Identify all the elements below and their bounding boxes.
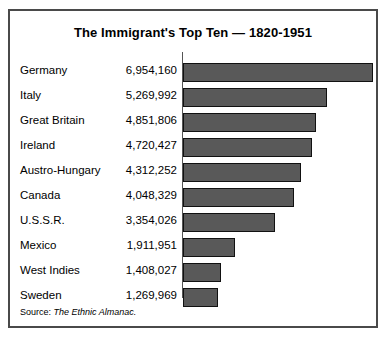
bar-row-label: Italy	[20, 89, 41, 101]
bar-row: Germany6,954,160	[10, 61, 376, 86]
bar-row-label: Sweden	[20, 289, 62, 301]
bar-row-value: 1,408,027	[70, 264, 177, 276]
bar-row: U.S.S.R.3,354,026	[10, 211, 376, 236]
bar-row-value: 5,269,992	[70, 89, 177, 101]
bar	[183, 138, 312, 157]
bar	[183, 63, 373, 82]
bar-row-value: 4,720,427	[70, 139, 177, 151]
bar-row-label: Ireland	[20, 139, 55, 151]
bar-row: Mexico1,911,951	[10, 236, 376, 261]
bar-row: Italy5,269,992	[10, 86, 376, 111]
screenshot-root: The Immigrant's Top Ten — 1820-1951 Germ…	[0, 0, 387, 339]
bar	[183, 113, 316, 132]
bar-row-value: 3,354,026	[70, 214, 177, 226]
bar-row-label: U.S.S.R.	[20, 214, 65, 226]
bar-row-value: 4,851,806	[70, 114, 177, 126]
chart-title: The Immigrant's Top Ten — 1820-1951	[10, 25, 376, 40]
source-title: The Ethnic Almanac.	[54, 307, 137, 317]
bar-row-value: 4,048,329	[70, 189, 177, 201]
source-label: Source:	[20, 307, 51, 317]
bar-row: Austro-Hungary4,312,252	[10, 161, 376, 186]
bar	[183, 238, 235, 257]
bar	[183, 88, 327, 107]
bar-row-value: 1,269,969	[70, 289, 177, 301]
plot-area: Germany6,954,160Italy5,269,992Great Brit…	[10, 45, 376, 300]
bar-row-value: 4,312,252	[70, 164, 177, 176]
bar-row-value: 1,911,951	[70, 239, 177, 251]
bar-row: Great Britain4,851,806	[10, 111, 376, 136]
chart-frame: The Immigrant's Top Ten — 1820-1951 Germ…	[8, 9, 378, 328]
bar	[183, 163, 301, 182]
bar-row-value: 6,954,160	[70, 64, 177, 76]
bar-row-label: Mexico	[20, 239, 56, 251]
bar-row: West Indies1,408,027	[10, 261, 376, 286]
bar	[183, 263, 221, 282]
bar-row: Ireland4,720,427	[10, 136, 376, 161]
bar-row: Canada4,048,329	[10, 186, 376, 211]
source-note: Source: The Ethnic Almanac.	[20, 307, 136, 317]
bar	[183, 188, 294, 207]
bar	[183, 213, 275, 232]
bar-row-label: Canada	[20, 189, 60, 201]
bar-row-label: Germany	[20, 64, 67, 76]
bar	[183, 288, 218, 307]
